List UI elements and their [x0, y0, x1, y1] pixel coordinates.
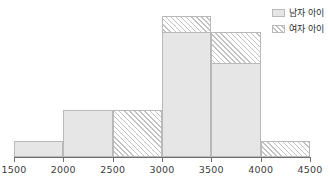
legend-item-male: 남자 아이	[272, 6, 324, 19]
x-tick-label-3500: 3500	[199, 164, 224, 175]
x-tick-label-3000: 3000	[150, 164, 175, 175]
bar-female-4000-4500	[261, 141, 310, 157]
x-tick-4500	[310, 157, 311, 162]
x-tick-3000	[162, 157, 163, 162]
x-tick-label-4000: 4000	[248, 164, 273, 175]
bar-male-2000-2500	[63, 110, 112, 157]
legend-item-female: 여자 아이	[272, 22, 324, 35]
bar-female-2500-3000	[113, 110, 162, 157]
x-tick-label-1500: 1500	[2, 164, 27, 175]
solid-gray-swatch-icon	[272, 9, 285, 17]
chart-legend: 남자 아이 여자 아이	[272, 6, 324, 35]
bar-male-1500-2000	[14, 141, 63, 157]
x-tick-2500	[113, 157, 114, 162]
legend-label-female: 여자 아이	[289, 22, 324, 35]
x-tick-label-4500: 4500	[298, 164, 323, 175]
bar-male-3000-3500	[162, 32, 211, 157]
hatched-swatch-icon	[272, 25, 285, 33]
bar-male-3500-4000	[211, 63, 260, 157]
x-tick-3500	[211, 157, 212, 162]
plot-area	[14, 8, 310, 157]
x-tick-2000	[63, 157, 64, 162]
legend-label-male: 남자 아이	[289, 6, 324, 19]
x-tick-label-2000: 2000	[51, 164, 76, 175]
x-tick-1500	[14, 157, 15, 162]
x-tick-4000	[261, 157, 262, 162]
x-tick-label-2500: 2500	[100, 164, 125, 175]
histogram-chart: 1500200025003000350040004500 남자 아이 여자 아이	[0, 0, 330, 186]
